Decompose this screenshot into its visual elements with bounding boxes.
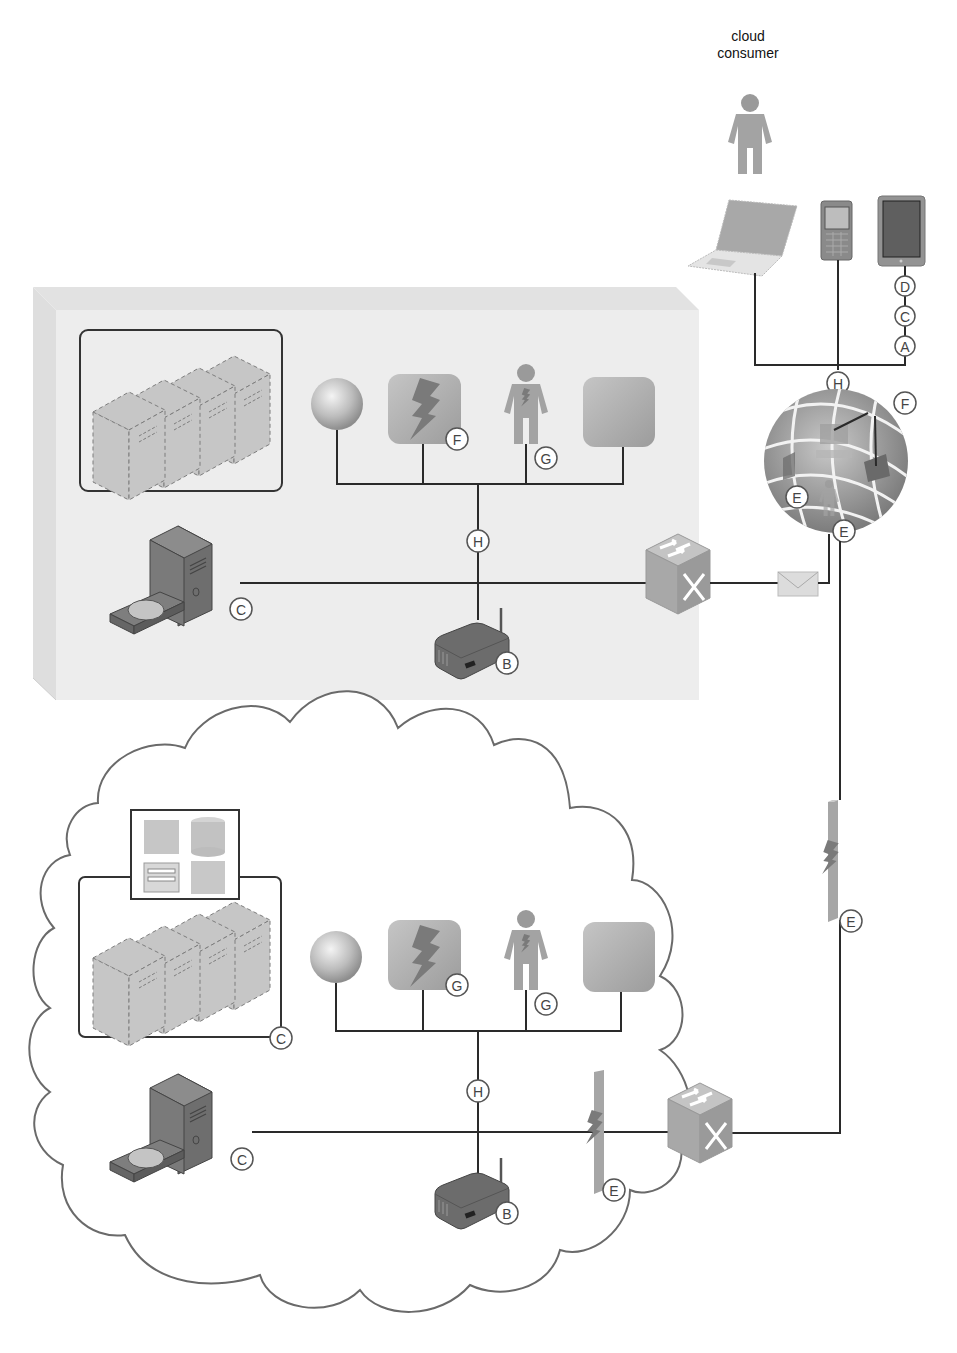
badge-tablet-a: A: [895, 336, 915, 356]
badge-onprem-c: C: [230, 598, 252, 620]
badge-cloud-g2: G: [535, 993, 557, 1015]
svg-text:C: C: [236, 602, 246, 618]
badge-onprem-h: H: [467, 530, 489, 552]
svg-text:G: G: [452, 978, 463, 994]
badge-cloud-h: H: [467, 1080, 489, 1102]
svg-text:C: C: [276, 1031, 286, 1047]
badge-cloud-g1: G: [446, 974, 468, 996]
svg-text:G: G: [541, 997, 552, 1013]
svg-text:B: B: [502, 656, 511, 672]
svg-text:A: A: [900, 339, 910, 355]
cloud-switch-icon: [668, 1083, 732, 1163]
cloud-sphere-icon: [310, 931, 362, 983]
onprem-sphere-icon: [311, 378, 363, 430]
message-envelope-icon: [778, 572, 818, 596]
svg-text:E: E: [792, 490, 801, 506]
badge-tablet-d: D: [895, 276, 915, 296]
svg-text:B: B: [502, 1206, 511, 1222]
badge-tablet-c: C: [895, 306, 915, 326]
onprem-switch-icon: [646, 534, 710, 614]
laptop-icon: [688, 200, 797, 276]
badge-internet-f: F: [894, 392, 916, 414]
onprem-blank-tile-icon: [583, 377, 655, 447]
link-firewall-icon: [822, 800, 839, 922]
tablet-icon: [878, 196, 925, 266]
internet-globe-icon: [760, 388, 912, 545]
badge-cloud-e: E: [603, 1179, 625, 1201]
badge-cloud-c: C: [231, 1148, 253, 1170]
svg-text:E: E: [609, 1183, 618, 1199]
badge-link-e: E: [840, 910, 862, 932]
svg-text:D: D: [900, 279, 910, 295]
svg-text:F: F: [901, 396, 910, 412]
badge-internet-e1: E: [786, 486, 808, 508]
svg-text:H: H: [473, 534, 483, 550]
badge-cloud-b: B: [496, 1202, 518, 1224]
svg-text:F: F: [453, 432, 462, 448]
svg-text:H: H: [473, 1084, 483, 1100]
cloud-resource-panel: [131, 810, 239, 899]
svg-text:E: E: [846, 914, 855, 930]
badge-cloud-c-storage: C: [270, 1027, 292, 1049]
badge-onprem-f: F: [446, 428, 468, 450]
cloud-blank-tile-icon: [583, 922, 655, 992]
badge-internet-e2: E: [833, 520, 855, 542]
badge-onprem-g: G: [535, 447, 557, 469]
svg-text:C: C: [237, 1152, 247, 1168]
network-diagram: D C A H F E E: [0, 0, 957, 1353]
mobile-phone-icon: [821, 201, 852, 260]
svg-text:G: G: [541, 451, 552, 467]
svg-text:C: C: [900, 309, 910, 325]
svg-text:E: E: [839, 524, 848, 540]
cloud-consumer-person-icon: [728, 94, 772, 174]
badge-onprem-b: B: [496, 652, 518, 674]
